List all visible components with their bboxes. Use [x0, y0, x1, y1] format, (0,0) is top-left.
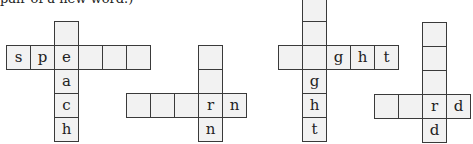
empty-cell[interactable] — [126, 93, 151, 118]
empty-cell[interactable] — [422, 22, 447, 47]
empty-cell[interactable] — [422, 46, 447, 71]
letter-cell: n — [222, 93, 247, 118]
empty-cell[interactable] — [374, 94, 399, 119]
letter-cell: g — [326, 45, 351, 70]
letter-cell: a — [54, 69, 79, 94]
empty-cell[interactable] — [422, 70, 447, 95]
letter-cell: g — [302, 69, 327, 94]
empty-cell[interactable] — [54, 21, 79, 46]
letter-cell: h — [302, 93, 327, 118]
letter-cell: h — [54, 117, 79, 142]
instruction-caption: pair of a new word.) — [0, 0, 133, 6]
letter-cell: t — [302, 117, 327, 142]
empty-cell[interactable] — [174, 93, 199, 118]
letter-cell: t — [374, 45, 399, 70]
empty-cell[interactable] — [150, 93, 175, 118]
letter-cell: d — [422, 118, 447, 143]
letter-cell: r — [422, 94, 447, 119]
empty-cell[interactable] — [302, 0, 327, 22]
letter-cell: d — [446, 94, 471, 119]
letter-cell: e — [54, 45, 79, 70]
empty-cell[interactable] — [302, 21, 327, 46]
letter-cell: s — [6, 45, 31, 70]
empty-cell[interactable] — [78, 45, 103, 70]
letter-cell: r — [198, 93, 223, 118]
letter-cell: c — [54, 93, 79, 118]
empty-cell[interactable] — [198, 45, 223, 70]
letter-cell: n — [198, 117, 223, 142]
empty-cell[interactable] — [102, 45, 127, 70]
letter-cell: p — [30, 45, 55, 70]
empty-cell[interactable] — [198, 69, 223, 94]
letter-cell: h — [350, 45, 375, 70]
empty-cell[interactable] — [398, 94, 423, 119]
empty-cell[interactable] — [302, 45, 327, 70]
empty-cell[interactable] — [126, 45, 151, 70]
empty-cell[interactable] — [278, 45, 303, 70]
